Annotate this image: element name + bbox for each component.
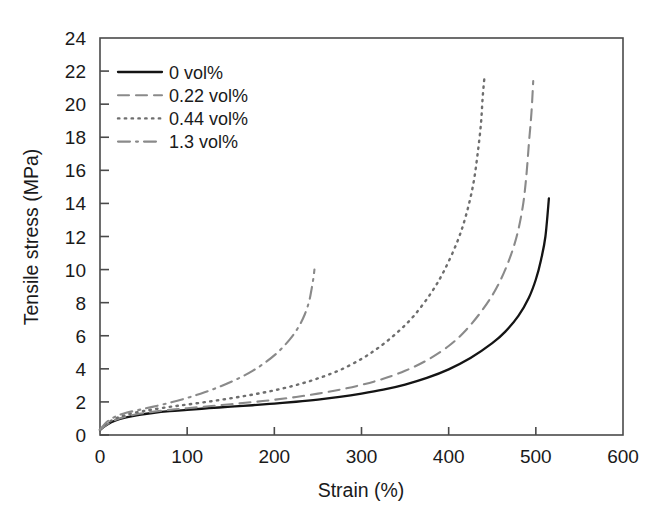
y-tick-label: 8 — [75, 293, 86, 314]
x-tick-label: 400 — [433, 446, 465, 467]
chart-canvas: 0100200300400500600 02468101214161820222… — [0, 0, 671, 523]
x-tick-label: 300 — [346, 446, 378, 467]
legend-label: 1.3 vol% — [169, 132, 238, 152]
y-tick-label: 2 — [75, 392, 86, 413]
x-tick-label: 0 — [95, 446, 106, 467]
y-tick-label: 6 — [75, 326, 86, 347]
legend-label: 0.22 vol% — [169, 86, 248, 106]
y-tick-label: 20 — [65, 94, 86, 115]
y-tick-label: 12 — [65, 227, 86, 248]
x-tick-label: 500 — [520, 446, 552, 467]
y-tick-label: 16 — [65, 160, 86, 181]
y-axis-title: Tensile stress (MPa) — [20, 149, 42, 326]
y-tick-label: 24 — [65, 28, 87, 49]
x-tick-label: 100 — [171, 446, 203, 467]
x-axis-title: Strain (%) — [318, 479, 405, 501]
y-tick-label: 22 — [65, 61, 86, 82]
y-tick-label: 10 — [65, 260, 86, 281]
y-tick-label: 18 — [65, 127, 86, 148]
x-tick-label: 200 — [258, 446, 290, 467]
y-tick-label: 4 — [75, 359, 86, 380]
legend-label: 0.44 vol% — [169, 109, 248, 129]
tensile-stress-strain-figure: 0100200300400500600 02468101214161820222… — [0, 0, 671, 523]
legend-label: 0 vol% — [169, 63, 223, 83]
x-tick-label: 600 — [607, 446, 639, 467]
y-tick-label: 0 — [75, 425, 86, 446]
y-tick-label: 14 — [65, 193, 87, 214]
